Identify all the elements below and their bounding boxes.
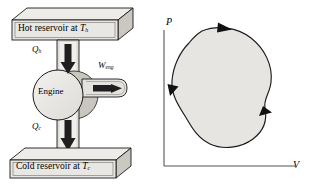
- cold-reservoir-label: Cold reservoir at Tc: [16, 162, 90, 172]
- work-out-label: Weng: [98, 61, 114, 71]
- hot-reservoir-label: Hot reservoir at Th: [18, 24, 88, 34]
- pv-diagram-panel: Area = Weng: [155, 0, 310, 185]
- engine-label: Engine: [38, 87, 64, 96]
- heat-in-label: Qh: [32, 45, 41, 55]
- engine-schematic-panel: Hot reservoir at Th Cold reservoir at Tc…: [0, 0, 155, 185]
- p-axis-label: P: [166, 17, 172, 27]
- v-axis-label: V: [293, 160, 299, 170]
- pv-diagram-svg: [155, 0, 310, 185]
- figure-container: Hot reservoir at Th Cold reservoir at Tc…: [0, 0, 310, 185]
- cycle-curve: [172, 28, 271, 148]
- heat-out-label: Qc: [32, 122, 41, 132]
